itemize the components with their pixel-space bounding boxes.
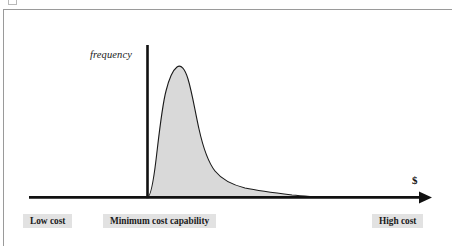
callout-minimum-cost-capability: Minimum cost capability <box>103 214 216 228</box>
figure-frame: frequency $ Low cost Minimum cost capabi… <box>3 9 452 246</box>
x-axis-label: $ <box>412 174 418 186</box>
cropped-figure-marker <box>8 0 17 5</box>
callout-high-cost: High cost <box>372 214 423 228</box>
cropped-top-region <box>0 0 452 9</box>
y-axis-label: frequency <box>90 49 132 60</box>
distribution-area-fill <box>148 66 317 197</box>
chart-canvas <box>4 10 452 246</box>
x-axis-arrowhead <box>419 191 432 203</box>
callout-low-cost: Low cost <box>23 214 72 228</box>
cost-distribution-chart: frequency $ Low cost Minimum cost capabi… <box>4 10 452 246</box>
